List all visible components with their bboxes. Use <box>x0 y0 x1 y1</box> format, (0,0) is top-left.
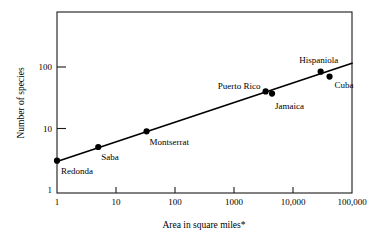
y-axis-title: Number of species <box>16 67 26 139</box>
x-axis-tick-group: 110100100010,000100,000 <box>55 187 367 207</box>
x-tick-label-10,000: 10,000 <box>281 197 306 207</box>
y-tick-label-10: 10 <box>43 124 53 134</box>
data-point-hispaniola <box>318 69 324 75</box>
data-point-redonda <box>54 158 60 164</box>
data-point-saba <box>95 144 101 150</box>
data-label-redonda: Redonda <box>61 166 93 176</box>
chart-svg: 110100 110100100010,000100,000 RedondaSa… <box>0 0 385 238</box>
species-area-chart-figure: 110100 110100100010,000100,000 RedondaSa… <box>0 0 385 238</box>
x-tick-label-100,000: 100,000 <box>337 197 367 207</box>
plot-frame <box>57 12 352 193</box>
data-label-jamaica: Jamaica <box>275 101 304 111</box>
x-axis-title: Area in square miles* <box>162 220 245 230</box>
y-tick-label-1: 1 <box>48 185 53 195</box>
data-label-saba: Saba <box>101 152 119 162</box>
x-tick-label-1000: 1000 <box>225 197 244 207</box>
data-label-cuba: Cuba <box>335 80 354 90</box>
x-tick-label-10: 10 <box>112 197 122 207</box>
data-point-cuba <box>326 73 332 79</box>
x-tick-label-100: 100 <box>168 197 182 207</box>
data-point-puerto-rico <box>263 88 269 94</box>
data-point-jamaica <box>269 90 275 96</box>
data-label-montserrat: Montserrat <box>150 137 190 147</box>
data-label-puerto-rico: Puerto Rico <box>218 81 261 91</box>
data-label-hispaniola: Hispaniola <box>299 55 338 65</box>
data-point-montserrat <box>143 128 149 134</box>
y-tick-label-100: 100 <box>39 62 53 72</box>
x-tick-label-1: 1 <box>55 197 60 207</box>
data-points-group: RedondaSabaMontserratPuerto RicoJamaicaH… <box>54 55 354 176</box>
